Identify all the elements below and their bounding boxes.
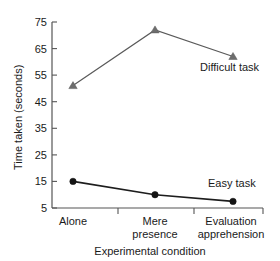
x-tick-label-evaluation-line2: apprehension — [198, 228, 265, 240]
y-tick-label-45: 45 — [35, 96, 47, 108]
y-tick-label-15: 15 — [35, 175, 47, 187]
series-annotation-difficult-task: Difficult task — [200, 61, 260, 73]
chart-canvas: 75 65 55 45 35 25 15 5 Time taken (secon… — [0, 0, 280, 261]
y-tick-label-35: 35 — [35, 122, 47, 134]
y-axis-ticks — [52, 22, 57, 208]
x-axis-title: Experimental condition — [94, 245, 205, 257]
data-point-easy-alone — [70, 178, 76, 184]
data-point-difficult-alone — [69, 82, 77, 89]
y-tick-label-25: 25 — [35, 149, 47, 161]
x-tick-label-mere-presence-line2: presence — [132, 228, 177, 240]
series-line-difficult-task — [73, 30, 233, 86]
x-tick-label-alone: Alone — [59, 215, 87, 227]
y-tick-label-5: 5 — [41, 202, 47, 214]
y-axis-title: Time taken (seconds) — [12, 65, 24, 170]
x-axis-ticks — [118, 208, 263, 214]
series-difficult-task — [69, 26, 237, 89]
line-chart: 75 65 55 45 35 25 15 5 Time taken (secon… — [0, 0, 280, 261]
data-point-easy-mere-presence — [152, 192, 158, 198]
data-point-easy-evaluation — [230, 198, 236, 204]
x-tick-label-evaluation-line1: Evaluation — [205, 215, 256, 227]
data-point-difficult-mere-presence — [151, 26, 159, 33]
y-tick-label-65: 65 — [35, 43, 47, 55]
x-tick-label-mere-presence-line1: Mere — [142, 215, 167, 227]
y-tick-label-55: 55 — [35, 69, 47, 81]
series-annotation-easy-task: Easy task — [208, 177, 256, 189]
y-tick-label-75: 75 — [35, 16, 47, 28]
